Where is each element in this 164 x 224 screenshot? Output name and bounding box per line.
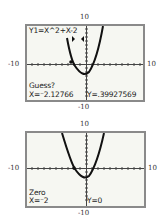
trace-cursor bbox=[69, 60, 73, 64]
parabola-curve bbox=[62, 133, 104, 177]
prompt-label: Guess? bbox=[29, 82, 55, 90]
axis-label-top: 10 bbox=[80, 121, 89, 128]
zero-cursor bbox=[72, 166, 76, 170]
axis-label-left: -10 bbox=[8, 61, 19, 68]
axis-label-right: 10 bbox=[147, 61, 156, 68]
y-readout: Y=0 bbox=[87, 197, 102, 205]
y-axis bbox=[85, 26, 88, 100]
y-readout: Y=.39927569 bbox=[87, 91, 136, 99]
axis-label-right: 10 bbox=[148, 165, 157, 172]
x-axis bbox=[27, 63, 143, 66]
x-readout: X=⁻2 bbox=[29, 197, 48, 205]
left-bound-marker-icon bbox=[72, 36, 75, 42]
axis-label-left: -10 bbox=[8, 165, 19, 172]
axis-label-top: 10 bbox=[80, 14, 89, 21]
x-axis bbox=[27, 167, 144, 170]
axis-label-bottom: -10 bbox=[78, 104, 89, 111]
axis-label-bottom: -10 bbox=[78, 210, 89, 217]
right-bound-marker-icon bbox=[81, 36, 84, 42]
graph-screen-guess: Y1=X^2+X-2 Guess? X=⁻2.12766 Y=.39927569 bbox=[25, 24, 145, 102]
x-readout: X=⁻2.12766 bbox=[29, 91, 73, 99]
graph-screen-zero: Zero X=⁻2 Y=0 bbox=[25, 131, 146, 208]
equation-label: Y1=X^2+X-2 bbox=[29, 27, 77, 35]
